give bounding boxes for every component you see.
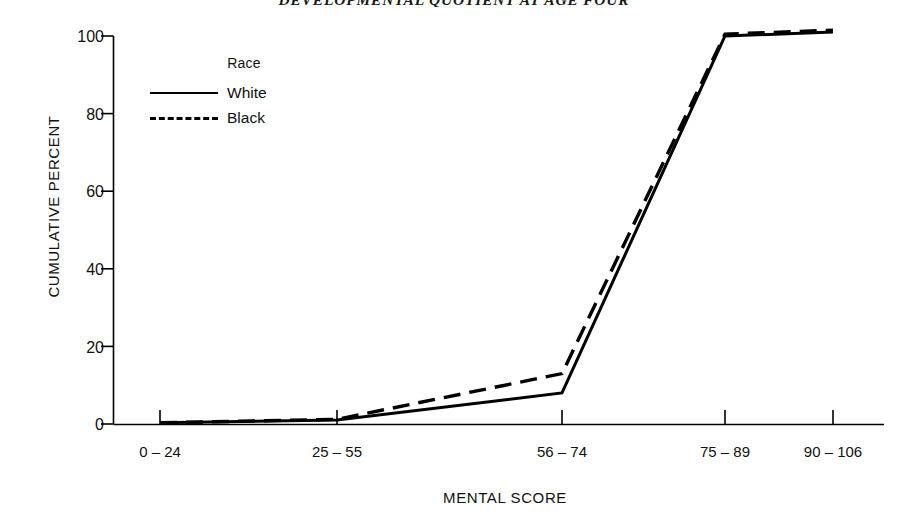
y-axis-ticks [101, 36, 114, 424]
plot-area [0, 0, 908, 531]
legend-title: Race [188, 55, 300, 71]
legend-label-black: Black [218, 109, 265, 127]
chart-figure: DEVELOPMENTAL QUOTIENT AT AGE FOUR CUMUL… [0, 0, 908, 531]
legend-swatch-solid-line-icon [150, 87, 218, 99]
legend-entry-white: White [150, 82, 300, 103]
chart-legend: Race White Black [150, 55, 300, 132]
legend-label-white: White [218, 84, 267, 102]
legend-entry-black: Black [150, 107, 300, 128]
legend-swatch-dashed-line-icon [150, 112, 218, 124]
